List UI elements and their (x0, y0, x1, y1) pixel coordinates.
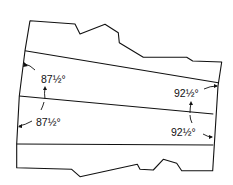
angle-label-left-bottom: 87½° (36, 116, 61, 128)
arrowhead-icon (209, 135, 213, 139)
arrowhead-icon (18, 124, 22, 128)
diagram-canvas: 87½° 87½° 92½° 92½° (0, 0, 233, 185)
angle-label-left-top: 87½° (41, 73, 66, 85)
arrowhead-icon (43, 86, 47, 90)
cut-line-3 (17, 144, 214, 145)
angle-label-right-bottom: 92½° (171, 126, 196, 138)
bent-board-diagram: 87½° 87½° 92½° 92½° (0, 0, 233, 185)
angle-label-right-top: 92½° (174, 87, 199, 99)
arrow-right-mid-2 (190, 115, 192, 123)
arrow-left-mid-2 (41, 102, 44, 110)
arrowhead-icon (189, 101, 193, 105)
